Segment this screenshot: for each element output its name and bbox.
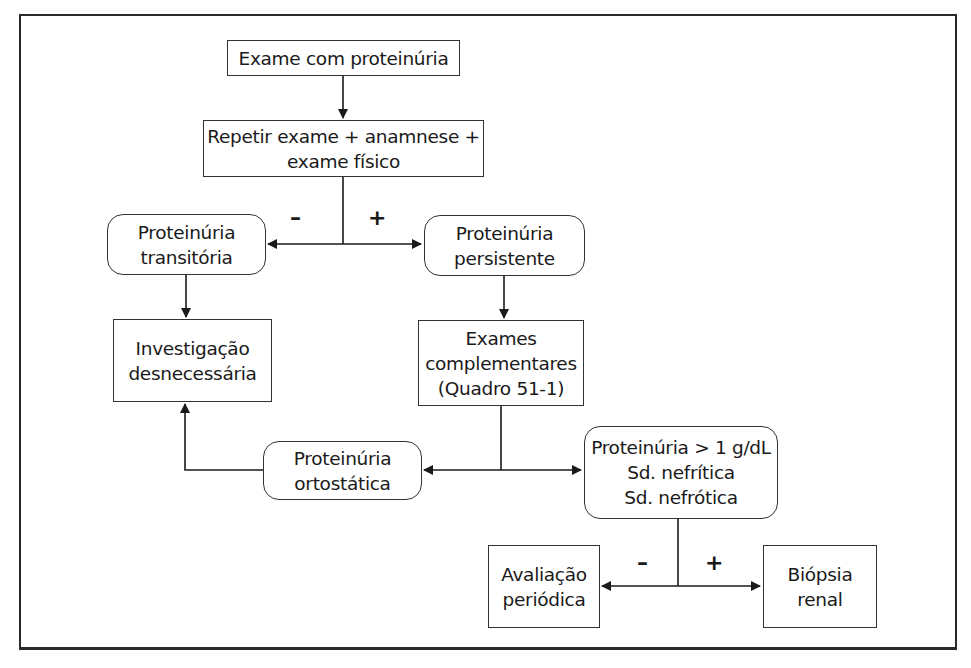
node-text: Repetir exame + anamnese + [207, 124, 480, 149]
node-exam-with-proteinuria: Exame com proteinúria [227, 40, 460, 76]
node-text: complementares [425, 351, 577, 376]
node-complementary-exams: Exames complementares (Quadro 51-1) [418, 320, 584, 406]
node-text: Proteinúria > 1 g/dL [591, 435, 771, 460]
node-text: (Quadro 51-1) [438, 376, 564, 401]
node-text: Sd. nefrótica [624, 485, 737, 510]
node-transient-proteinuria: Proteinúria transitória [107, 214, 266, 275]
node-text: Avaliação [501, 562, 587, 587]
arrow-orthostatic-to-unnecessary [185, 404, 263, 470]
node-text: Proteinúria [456, 221, 553, 246]
node-text: Proteinúria [294, 446, 391, 471]
node-text: Exames [465, 326, 536, 351]
node-text: ortostática [294, 471, 390, 496]
node-renal-biopsy: Biópsia renal [763, 545, 877, 628]
node-text: Sd. nefrítica [627, 460, 735, 485]
node-orthostatic-proteinuria: Proteinúria ortostática [263, 441, 422, 500]
node-periodic-evaluation: Avaliação periódica [488, 545, 600, 628]
node-text: Exame com proteinúria [239, 46, 449, 71]
branch-positive-label: + [705, 552, 723, 574]
node-text: exame físico [287, 149, 400, 174]
node-text: renal [797, 587, 842, 612]
branch-positive-label: + [368, 207, 386, 229]
node-severe-proteinuria: Proteinúria > 1 g/dL Sd. nefrítica Sd. n… [584, 426, 778, 519]
node-persistent-proteinuria: Proteinúria persistente [424, 215, 585, 276]
node-repeat-exam: Repetir exame + anamnese + exame físico [203, 120, 484, 177]
node-text: Proteinúria [138, 220, 235, 245]
node-text: Investigação [136, 336, 250, 361]
node-text: desnecessária [128, 361, 256, 386]
node-text: transitória [140, 245, 232, 270]
branch-negative-label: – [637, 552, 648, 574]
node-unnecessary-investigation: Investigação desnecessária [113, 319, 272, 402]
node-text: Biópsia [788, 562, 853, 587]
node-text: persistente [454, 246, 555, 271]
branch-negative-label: – [290, 207, 301, 229]
node-text: periódica [503, 587, 586, 612]
